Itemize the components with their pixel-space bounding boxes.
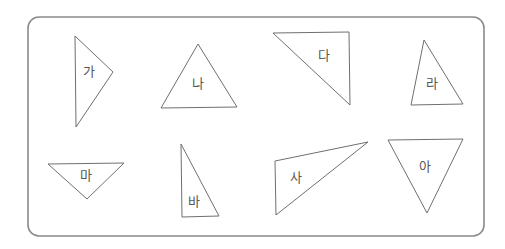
triangle-shape	[411, 40, 463, 105]
triangle-label: 나	[192, 76, 204, 91]
triangle-shape	[181, 144, 219, 217]
triangle-ma: 마	[48, 163, 124, 199]
triangle-diagram: 가 나 다 라 마 바 사 아	[0, 0, 505, 249]
triangle-a: 아	[388, 139, 463, 213]
triangle-label: 다	[318, 48, 330, 63]
triangle-shape	[273, 32, 350, 105]
triangle-label: 마	[80, 168, 92, 183]
triangle-shape	[75, 36, 113, 127]
triangle-label: 라	[426, 76, 438, 91]
triangle-label: 바	[188, 194, 200, 209]
outer-frame	[28, 17, 484, 236]
triangle-label: 사	[290, 170, 302, 185]
triangle-sa: 사	[275, 142, 368, 215]
triangle-ba: 바	[181, 144, 219, 217]
triangle-label: 가	[83, 64, 95, 79]
triangle-na: 나	[161, 44, 237, 108]
triangle-ra: 라	[411, 40, 463, 105]
triangle-da: 다	[273, 32, 350, 105]
triangle-shape	[388, 139, 463, 213]
triangle-ga: 가	[75, 36, 113, 127]
triangle-shape	[275, 142, 368, 215]
triangle-label: 아	[419, 159, 431, 174]
